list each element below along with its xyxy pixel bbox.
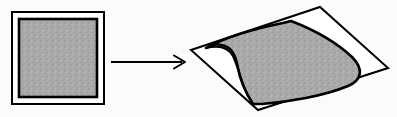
source-square-group bbox=[12, 12, 104, 104]
source-square-inner-fill bbox=[19, 19, 97, 97]
figure-container: Flat square domain mapped to a curved de… bbox=[0, 0, 397, 117]
figure-svg bbox=[0, 0, 397, 117]
